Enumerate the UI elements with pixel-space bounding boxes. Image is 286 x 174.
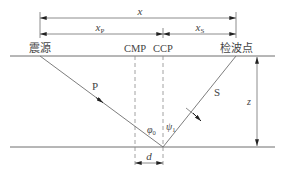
cmp-label: CMP — [124, 43, 146, 54]
xp-label: xP — [95, 21, 105, 35]
psi1-angle-label: ψ1 — [166, 121, 175, 133]
p-wave-direction-arrow — [96, 98, 103, 103]
s-wave-polarization-arrow — [193, 113, 201, 121]
converted-wave-geometry-diagram: x xP xS 震源 检波点 CMP CCP P S φ0 ψ1 z d — [0, 0, 286, 174]
xs-label: xS — [195, 21, 205, 35]
s-wave-label: S — [214, 86, 220, 98]
x-label: x — [137, 5, 143, 17]
p-wave-label: P — [92, 80, 98, 92]
phi0-angle-label: φ0 — [147, 124, 156, 136]
source-label: 震源 — [29, 41, 51, 54]
d-label: d — [146, 150, 152, 162]
receiver-label: 检波点 — [220, 41, 253, 54]
z-label: z — [246, 96, 251, 107]
s-wave-ray — [163, 56, 236, 147]
ccp-label: CCP — [153, 43, 173, 54]
